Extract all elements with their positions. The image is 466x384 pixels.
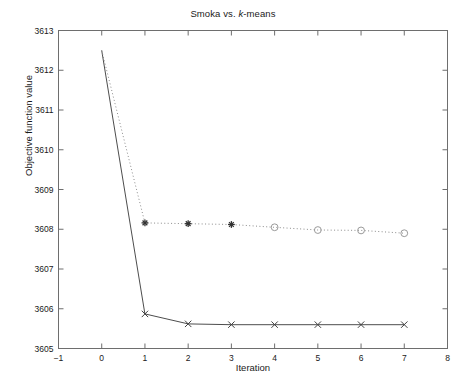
figure-panel: Smoka vs. k-means Objective function val… xyxy=(0,0,466,384)
x-tick-label: 3 xyxy=(229,353,234,363)
x-tick-label: 5 xyxy=(315,353,320,363)
y-tick-label: 3609 xyxy=(23,185,54,195)
plot-canvas xyxy=(0,0,466,384)
series-line-smoka xyxy=(102,50,405,324)
axis-ticks xyxy=(59,31,448,349)
x-tick-label: 6 xyxy=(359,353,364,363)
series-line-kmeans xyxy=(102,50,405,233)
y-tick-label: 3611 xyxy=(23,105,54,115)
series-layer xyxy=(102,50,408,327)
x-tick-label: 4 xyxy=(272,353,277,363)
data-point-marker xyxy=(185,220,192,227)
data-point-marker xyxy=(401,230,408,237)
y-tick-label: 3608 xyxy=(23,224,54,234)
y-tick-label: 3610 xyxy=(23,145,54,155)
x-tick-label: 2 xyxy=(186,353,191,363)
data-point-marker xyxy=(142,219,149,226)
y-tick-label: 3613 xyxy=(23,26,54,36)
x-tick-label: −1 xyxy=(54,353,64,363)
y-tick-label: 3606 xyxy=(23,304,54,314)
data-point-marker xyxy=(228,221,235,228)
y-tick-label: 3612 xyxy=(23,65,54,75)
x-tick-label: 8 xyxy=(445,353,450,363)
x-tick-label: 7 xyxy=(402,353,407,363)
axes-frame xyxy=(59,31,448,349)
x-tick-label: 1 xyxy=(143,353,148,363)
x-tick-label: 0 xyxy=(99,353,104,363)
y-tick-label: 3607 xyxy=(23,264,54,274)
y-tick-label: 3605 xyxy=(23,344,54,354)
